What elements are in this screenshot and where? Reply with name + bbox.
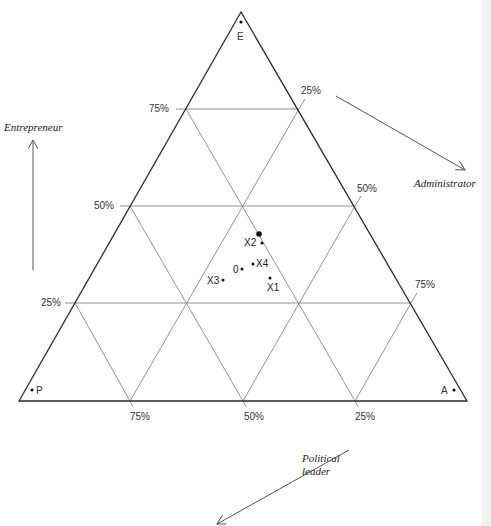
vertex-label-p: P — [36, 386, 43, 396]
tick-bottom-25: 25% — [355, 412, 375, 422]
axis-label-administrator: Administrator — [414, 177, 476, 190]
administrator-arrow — [336, 96, 465, 170]
tick-left-75: 75% — [149, 104, 169, 114]
ternary-diagram: E P A Entrepreneur Administrator Politic… — [0, 0, 491, 526]
tick-left-25: 25% — [41, 298, 61, 308]
vertex-label-a: A — [441, 386, 448, 396]
diagram-graphics — [0, 0, 491, 526]
point-label-x4: X4 — [256, 259, 268, 269]
tick-marks — [65, 99, 417, 407]
tick-right-50: 50% — [357, 184, 377, 194]
point-label-x1: X1 — [267, 283, 279, 293]
tick-right-25: 25% — [301, 86, 321, 96]
point-label-x3: X3 — [207, 276, 219, 286]
axis-label-political-leader: Political leader — [302, 452, 340, 477]
point-label-0: 0 — [233, 265, 239, 275]
point-label-x2: X2 — [244, 238, 256, 248]
grid-lines — [75, 12, 411, 401]
political-leader-line2: leader — [302, 465, 340, 478]
tick-bottom-50: 50% — [244, 412, 264, 422]
vertex-label-e: E — [237, 32, 244, 42]
axis-label-entrepreneur: Entrepreneur — [4, 121, 62, 134]
tick-left-50: 50% — [94, 201, 114, 211]
tick-bottom-75: 75% — [130, 412, 150, 422]
tick-right-75: 75% — [415, 280, 435, 290]
page-edge — [482, 0, 491, 526]
political-leader-line1: Political — [302, 452, 340, 465]
